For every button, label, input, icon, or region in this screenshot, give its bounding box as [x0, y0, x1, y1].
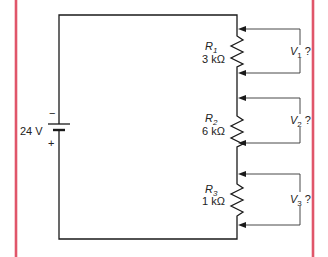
v1-subscript: 1 — [297, 51, 302, 60]
source-voltage-label: 24 V — [20, 125, 43, 137]
v1-label: V1? — [290, 45, 311, 60]
v1-bottom-lead — [244, 58, 300, 73]
resistor-r1-label: R1 3 kΩ — [202, 40, 225, 65]
circuit-diagram: 24 V − + R1 3 kΩ R2 6 kΩ R3 1 kΩ V1? V2?… — [0, 0, 328, 257]
v2-top-arrow-icon — [238, 95, 246, 101]
v3-top-lead — [244, 174, 300, 192]
v3-bottom-lead — [244, 206, 300, 225]
r3-value: 1 kΩ — [202, 195, 225, 207]
battery-symbol — [48, 124, 70, 130]
v1-top-arrow-icon — [238, 26, 246, 32]
resistor-r3-label: R3 1 kΩ — [202, 183, 225, 207]
v1-top-lead — [244, 29, 300, 45]
r2-symbol: R — [205, 112, 213, 124]
top-wire — [59, 15, 237, 124]
v3-subscript: 3 — [297, 199, 302, 208]
v3-top-arrow-icon — [238, 171, 246, 177]
resistor-r2-zigzag — [231, 112, 243, 150]
v3-question: ? — [305, 193, 311, 205]
v2-label: V2? — [290, 114, 311, 129]
r1-value: 3 kΩ — [202, 53, 225, 65]
v3-bottom-arrow-icon — [238, 222, 246, 228]
r1-symbol: R — [205, 40, 213, 52]
r2-value: 6 kΩ — [202, 125, 225, 137]
resistor-r1-zigzag — [231, 30, 243, 70]
v1-question: ? — [305, 45, 311, 57]
v2-top-lead — [244, 98, 300, 114]
resistor-r2-label: R2 6 kΩ — [202, 112, 225, 137]
v3-label: V3? — [290, 193, 311, 208]
r3-symbol: R — [205, 183, 213, 195]
battery-positive-sign: + — [48, 137, 54, 149]
v2-question: ? — [305, 114, 311, 126]
v2-bottom-lead — [244, 127, 300, 143]
v1-bottom-arrow-icon — [238, 70, 246, 76]
resistor-r3-zigzag — [231, 178, 243, 222]
battery-negative-sign: − — [49, 107, 55, 119]
v2-subscript: 2 — [297, 120, 302, 129]
